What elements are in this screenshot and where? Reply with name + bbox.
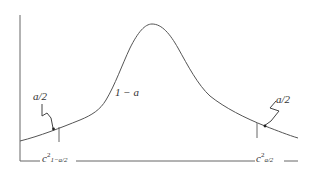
- right-critical-value-label: c2a/2: [256, 152, 273, 164]
- center-area-label: 1 − a: [115, 87, 139, 98]
- left-critical-value-label: c21−a/2: [42, 152, 68, 164]
- left-tail-label: a/2: [33, 91, 47, 102]
- distribution-diagram: [0, 0, 332, 169]
- left-tail-pointer: [42, 104, 53, 128]
- right-tail-point: [264, 125, 267, 128]
- right-tail-label: a/2: [276, 94, 290, 105]
- right-critical-sub: a/2: [264, 156, 273, 164]
- left-critical-sub: 1−a/2: [50, 156, 67, 164]
- density-curve: [20, 24, 298, 141]
- left-tail-point: [52, 128, 55, 131]
